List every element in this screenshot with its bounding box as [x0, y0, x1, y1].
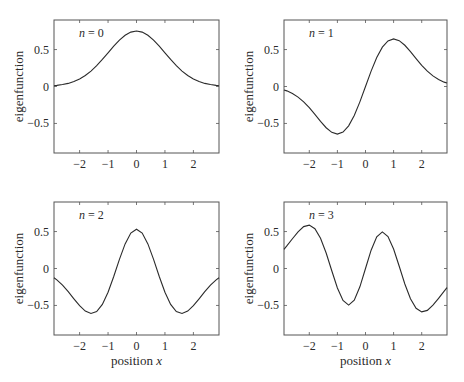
x-axis-label: position x	[340, 353, 391, 368]
y-tick-labels: 0.5 0 −0.5	[27, 225, 49, 313]
x-tick-label: 0	[134, 339, 140, 353]
eigenfunction-curve-n2	[54, 229, 219, 313]
y-axis-label: eigenfunction	[241, 50, 256, 122]
x-tick-label: −1	[331, 339, 344, 353]
eigenfunction-curve-n3	[284, 225, 447, 312]
y-tick-label: −0.5	[27, 116, 49, 130]
x-axis-label-variable: x	[384, 353, 391, 368]
x-tick-label: −1	[102, 339, 115, 353]
x-tick-label: −1	[331, 157, 344, 171]
x-tick-labels: −2 −1 0 1 2	[303, 157, 425, 171]
y-tick-labels: 0.5 0 −0.5	[257, 43, 279, 131]
y-tick-label: 0.5	[34, 43, 49, 57]
x-axis-label-variable: x	[155, 353, 162, 368]
x-tick-label: −2	[73, 339, 86, 353]
x-tick-label: 2	[190, 157, 196, 171]
panel-n3: −2 −1 0 1 2 0.5 0 −0.5 eigenfunction pos…	[241, 202, 447, 368]
y-tick-label: 0	[43, 262, 49, 276]
figure: −2 −1 0 1 2 0.5 0 −0.5 eigenfunction n =…	[0, 0, 464, 382]
y-tick-label: 0	[273, 262, 279, 276]
panel-n0: −2 −1 0 1 2 0.5 0 −0.5 eigenfunction n =…	[11, 20, 219, 171]
x-tick-label: 0	[134, 157, 140, 171]
x-tick-label: −2	[303, 339, 316, 353]
label-equals: =	[85, 26, 98, 40]
x-tick-label: −2	[73, 157, 86, 171]
x-tick-label: 1	[162, 157, 168, 171]
panel-label-n3: n = 3	[309, 208, 334, 222]
eigenfunction-figure: −2 −1 0 1 2 0.5 0 −0.5 eigenfunction n =…	[0, 0, 464, 382]
y-axis-label: eigenfunction	[11, 50, 26, 122]
y-tick-label: −0.5	[257, 298, 279, 312]
y-tick-label: 0	[273, 80, 279, 94]
x-axis-label-text: position	[340, 353, 385, 368]
y-axis-label: eigenfunction	[11, 232, 26, 304]
panel-label-n2: n = 2	[79, 208, 104, 222]
x-tick-labels: −2 −1 0 1 2	[303, 339, 425, 353]
x-tick-label: 1	[162, 339, 168, 353]
x-tick-label: −2	[303, 157, 316, 171]
y-axis-label: eigenfunction	[241, 232, 256, 304]
x-tick-label: −1	[102, 157, 115, 171]
panel-label-n0: n = 0	[79, 26, 104, 40]
y-tick-label: 0	[43, 80, 49, 94]
x-tick-label: 2	[190, 339, 196, 353]
label-value: 2	[98, 208, 104, 222]
y-tick-label: 0.5	[264, 43, 279, 57]
panel-label-n1: n = 1	[309, 26, 334, 40]
x-tick-label: 0	[363, 339, 369, 353]
label-equals: =	[85, 208, 98, 222]
y-tick-labels: 0.5 0 −0.5	[257, 225, 279, 313]
label-value: 0	[98, 26, 104, 40]
x-tick-label: 1	[391, 157, 397, 171]
label-equals: =	[315, 208, 328, 222]
x-tick-label: 1	[391, 339, 397, 353]
label-value: 1	[328, 26, 334, 40]
y-tick-label: −0.5	[257, 116, 279, 130]
label-equals: =	[315, 26, 328, 40]
eigenfunction-curve-n1	[284, 39, 447, 134]
label-value: 3	[328, 208, 334, 222]
x-tick-label: 2	[419, 157, 425, 171]
y-tick-labels: 0.5 0 −0.5	[27, 43, 49, 131]
x-tick-label: 2	[419, 339, 425, 353]
x-axis-label-text: position	[111, 353, 156, 368]
x-tick-labels: −2 −1 0 1 2	[73, 157, 196, 171]
panel-n1: −2 −1 0 1 2 0.5 0 −0.5 eigenfunction n =…	[241, 20, 447, 171]
y-tick-label: 0.5	[264, 225, 279, 239]
panel-n2: −2 −1 0 1 2 0.5 0 −0.5 eigenfunction pos…	[11, 202, 219, 368]
y-tick-label: −0.5	[27, 298, 49, 312]
y-tick-label: 0.5	[34, 225, 49, 239]
x-axis-label: position x	[111, 353, 162, 368]
x-tick-label: 0	[363, 157, 369, 171]
x-tick-labels: −2 −1 0 1 2	[73, 339, 196, 353]
